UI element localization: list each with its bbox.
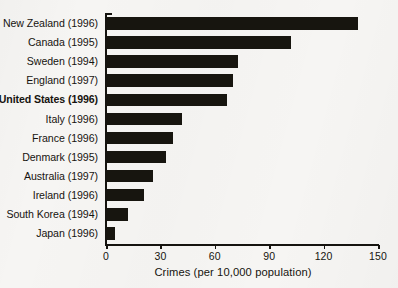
bar-rect xyxy=(106,113,182,125)
bar-category-label: Canada (1995) xyxy=(28,33,98,52)
x-axis-title: Crimes (per 10,000 population) xyxy=(0,266,398,278)
bar-category-label: New Zealand (1996) xyxy=(3,14,98,33)
bar-category-label: Sweden (1994) xyxy=(27,52,98,71)
bar-rows-container: New Zealand (1996)Canada (1995)Sweden (1… xyxy=(0,14,398,244)
bar-row: Ireland (1996) xyxy=(0,186,398,205)
bar-row: United States (1996) xyxy=(0,90,398,109)
bar-row: Canada (1995) xyxy=(0,33,398,52)
bar-chart-figure: New Zealand (1996)Canada (1995)Sweden (1… xyxy=(0,0,398,288)
bar-category-label: France (1996) xyxy=(32,129,98,148)
bar-rect xyxy=(106,151,166,163)
bar-rect xyxy=(106,94,227,106)
bar-rect xyxy=(106,189,144,201)
bar-rect xyxy=(106,208,128,220)
bar-rect xyxy=(106,36,291,48)
bar-rect xyxy=(106,227,115,239)
x-axis-tick-label: 120 xyxy=(315,250,333,262)
x-axis-tick-label: 0 xyxy=(103,250,109,262)
x-axis-title-text: Crimes (per 10,000 population) xyxy=(154,266,311,278)
bar-row: Australia (1997) xyxy=(0,167,398,186)
bar-row: Denmark (1995) xyxy=(0,148,398,167)
x-axis-tick xyxy=(106,245,108,249)
bar-rect xyxy=(106,132,173,144)
x-axis-tick xyxy=(215,245,217,249)
x-axis-tick-label: 30 xyxy=(154,250,166,262)
x-axis-tick xyxy=(378,245,380,249)
bar-row: Italy (1996) xyxy=(0,110,398,129)
bar-category-label: Italy (1996) xyxy=(46,110,98,129)
bar-row: Sweden (1994) xyxy=(0,52,398,71)
bar-category-label: Ireland (1996) xyxy=(33,186,98,205)
bar-row: Japan (1996) xyxy=(0,224,398,243)
bar-rect xyxy=(106,55,238,67)
bar-row: England (1997) xyxy=(0,71,398,90)
x-axis-tick-label: 90 xyxy=(263,250,275,262)
y-axis-top-tick xyxy=(106,13,112,15)
bar-category-label: England (1997) xyxy=(26,71,98,90)
x-axis-tick xyxy=(324,245,326,249)
x-axis-tick xyxy=(269,245,271,249)
bar-rect xyxy=(106,17,358,29)
bar-row: France (1996) xyxy=(0,129,398,148)
x-axis-tick xyxy=(160,245,162,249)
bar-category-label: South Korea (1994) xyxy=(6,205,98,224)
bar-row: New Zealand (1996) xyxy=(0,14,398,33)
x-axis-line xyxy=(105,244,379,246)
bar-rect xyxy=(106,74,233,86)
bar-category-label: Australia (1997) xyxy=(24,167,98,186)
bar-row: South Korea (1994) xyxy=(0,205,398,224)
bar-rect xyxy=(106,170,153,182)
bar-category-label: Denmark (1995) xyxy=(22,148,98,167)
x-axis-tick-label: 150 xyxy=(369,250,387,262)
bar-category-label: United States (1996) xyxy=(0,90,98,109)
x-axis-tick-label: 60 xyxy=(209,250,221,262)
bar-category-label: Japan (1996) xyxy=(36,224,98,243)
y-axis-line xyxy=(105,13,107,245)
